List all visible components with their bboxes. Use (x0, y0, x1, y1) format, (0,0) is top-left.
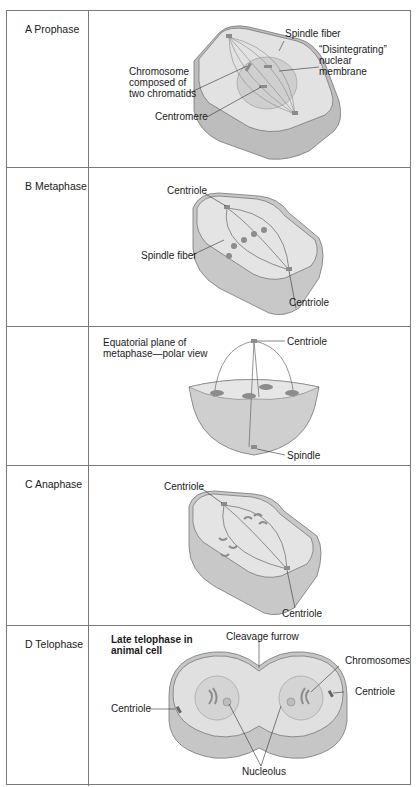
label-centriole-left: Centriole (111, 703, 151, 714)
label-equatorial-2: metaphase—polar view (103, 348, 208, 359)
mitosis-table: A Prophase (6, 10, 411, 785)
label-spindle-fiber: Spindle fiber (285, 28, 341, 39)
label-cleavage-furrow: Cleavage furrow (226, 631, 299, 642)
label-chromosome-1: Chromosome (129, 66, 189, 77)
phase-cell: A Prophase (7, 11, 89, 167)
telophase-figure: Late telophase in animal cell Cleavage f… (89, 626, 410, 786)
anaphase-figure: Centriole Centriole (89, 466, 410, 625)
row-anaphase: C Anaphase Centriole Centrio (7, 466, 410, 626)
metaphase-figure: Centriole Spindle fiber Centriole (89, 168, 410, 326)
polar-view-figure: Equatorial plane of metaphase—polar view… (89, 327, 410, 465)
label-disintegrating-2: nuclear (319, 55, 352, 66)
prophase-figure: Spindle fiber “Disintegrating” nuclear m… (89, 11, 410, 167)
phase-label-prophase: A Prophase (25, 23, 79, 35)
label-centriole-top: Centriole (167, 185, 207, 196)
label-title-1: Late telophase in (111, 634, 193, 645)
label-centriole: Centriole (287, 336, 327, 347)
label-spindle: Spindle (287, 450, 320, 461)
label-centriole-bottom: Centriole (282, 608, 322, 619)
label-nucleolus: Nucleolus (242, 766, 286, 777)
label-centriole-bottom: Centriole (289, 297, 329, 308)
phase-cell (7, 327, 89, 465)
label-chromosome-2: composed of (129, 77, 186, 88)
label-centriole-right: Centriole (355, 686, 395, 697)
row-metaphase: B Metaphase Centriole Spin (7, 168, 410, 327)
label-chromosome-3: two chromatids (129, 88, 196, 99)
phase-label-metaphase: B Metaphase (25, 180, 87, 192)
row-telophase: D Telophase (7, 626, 410, 786)
row-prophase: A Prophase (7, 11, 410, 168)
anaphase-cell-illustration (89, 466, 410, 625)
label-chromosomes: Chromosomes (345, 655, 410, 666)
phase-label-anaphase: C Anaphase (25, 478, 82, 490)
label-disintegrating-1: “Disintegrating” (319, 44, 387, 55)
label-centromere: Centromere (155, 111, 208, 122)
phase-cell: D Telophase (7, 626, 89, 786)
label-disintegrating-3: membrane (319, 66, 367, 77)
metaphase-cell-illustration (89, 168, 410, 326)
label-spindle-fiber: Spindle fiber (141, 250, 197, 261)
phase-cell: C Anaphase (7, 466, 89, 625)
label-centriole-top: Centriole (164, 481, 204, 492)
phase-cell: B Metaphase (7, 168, 89, 326)
label-title-2: animal cell (111, 645, 162, 656)
row-polar-view: Equatorial plane of metaphase—polar view… (7, 327, 410, 466)
phase-label-telophase: D Telophase (25, 638, 83, 650)
label-equatorial-1: Equatorial plane of (103, 337, 186, 348)
